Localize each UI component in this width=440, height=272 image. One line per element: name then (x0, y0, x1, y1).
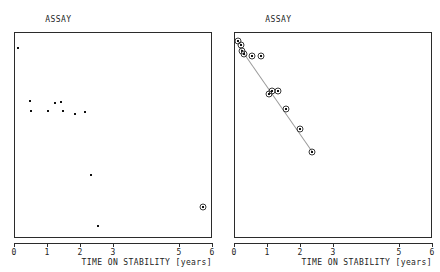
data-point (74, 113, 76, 115)
panel-a-plot-area (15, 33, 211, 237)
x-tick-mark (234, 243, 235, 247)
x-tick-label: 6 (209, 248, 214, 257)
x-tick-mark (212, 243, 213, 247)
data-point (311, 151, 313, 153)
stability-assay-figure: ASSAY (technician A) 012356 TIME ON STAB… (0, 0, 440, 272)
panel-technician-b: ASSAY (technician B) 012356 TIME ON STAB… (220, 0, 440, 272)
data-point (299, 128, 301, 130)
data-point (271, 90, 273, 92)
data-point (90, 174, 92, 176)
x-tick-label: 1 (44, 248, 49, 257)
x-tick-label: 2 (77, 248, 82, 257)
data-point (202, 206, 204, 208)
panel-technician-a: ASSAY (technician A) 012356 TIME ON STAB… (0, 0, 220, 272)
panel-a-x-axis-label: TIME ON STABILITY [years] (82, 258, 212, 267)
x-tick-mark (179, 243, 180, 247)
x-tick-mark (47, 243, 48, 247)
x-tick-mark (80, 243, 81, 247)
data-point (243, 53, 245, 55)
x-tick-mark (300, 243, 301, 247)
x-tick-label: 5 (176, 248, 181, 257)
x-tick-label: 1 (264, 248, 269, 257)
data-point (17, 47, 19, 49)
data-point (251, 55, 253, 57)
x-tick-label: 6 (429, 248, 434, 257)
data-point (97, 225, 99, 227)
data-point (84, 111, 86, 113)
panel-b-x-axis-label: TIME ON STABILITY [years] (302, 258, 432, 267)
x-tick-label: 3 (110, 248, 115, 257)
data-point (60, 101, 62, 103)
x-tick-label: 0 (11, 248, 16, 257)
x-tick-label: 5 (396, 248, 401, 257)
x-tick-mark (399, 243, 400, 247)
data-point (285, 108, 287, 110)
x-tick-mark (333, 243, 334, 247)
data-point (30, 110, 32, 112)
x-tick-mark (267, 243, 268, 247)
x-tick-label: 0 (231, 248, 236, 257)
panel-b-plot-area (235, 33, 431, 237)
panel-a-title-line1: ASSAY (45, 15, 71, 24)
panel-b-title-line1: ASSAY (265, 15, 291, 24)
panel-a-plot-frame (14, 32, 212, 238)
data-point (62, 110, 64, 112)
data-point (54, 102, 56, 104)
regression-line (239, 47, 312, 152)
data-point (47, 110, 49, 112)
x-tick-mark (432, 243, 433, 247)
data-point (260, 55, 262, 57)
data-point (277, 90, 279, 92)
x-tick-label: 3 (330, 248, 335, 257)
x-tick-mark (14, 243, 15, 247)
panel-b-plot-frame (234, 32, 432, 238)
x-tick-label: 2 (297, 248, 302, 257)
data-point (29, 100, 31, 102)
x-tick-mark (113, 243, 114, 247)
